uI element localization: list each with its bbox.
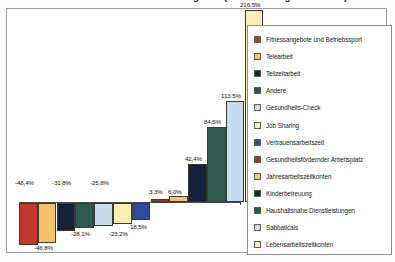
legend-swatch-icon: [254, 122, 261, 129]
bar: [75, 203, 94, 228]
legend-swatch-icon: [254, 241, 261, 248]
legend-item-label: Jahresarbeitszeitkonten: [266, 173, 331, 180]
bar-value-label: 216,5%: [240, 1, 260, 8]
legend-item-label: Teilzeitarbeit: [266, 70, 300, 77]
bar: [94, 203, 113, 226]
legend-item: Gesundheitsfördernder Arbeitsplatz: [254, 151, 387, 168]
legend-item: Fitnessangebote und Betriebssport: [254, 31, 387, 48]
legend-item-label: Haushaltsnahe Dienstleistungen: [266, 207, 355, 214]
legend-item-label: Kinderbetreuung: [266, 190, 312, 197]
bar-value-label: 42,4%: [185, 155, 202, 162]
chart-title-cropped: Anteil der Unternehmen mit Angebot (Verä…: [0, 0, 395, 7]
plot-area: -48,4%-46,8%-31,8%-28,1%-25,8%-23,2%-18,…: [13, 19, 241, 259]
legend-swatch-icon: [254, 190, 261, 197]
bar-value-label: -46,8%: [34, 244, 53, 251]
legend-swatch-icon: [254, 70, 261, 77]
legend-item: Lebensarbeitszeitkonten: [254, 236, 387, 253]
legend-item: Gesundheits-Check: [254, 99, 387, 116]
legend-swatch-icon: [254, 36, 261, 43]
bar: [226, 101, 245, 202]
bar-value-label: -28,1%: [71, 230, 90, 237]
legend-item: Haushaltsnahe Dienstleistungen: [254, 202, 387, 219]
legend-swatch-icon: [254, 224, 261, 231]
legend-item-label: Vertrauensarbeitszeit: [266, 139, 324, 146]
legend-item-label: Andere: [266, 87, 286, 94]
chart-legend: Fitnessangebote und BetriebssportTelearb…: [247, 25, 392, 255]
chart-title-text: Anteil der Unternehmen mit Angebot (Verä…: [40, 0, 348, 2]
bar: [132, 203, 151, 220]
bar-value-label: -48,4%: [15, 179, 34, 186]
legend-item-label: Gesundheits-Check: [266, 104, 320, 111]
legend-item-label: Gesundheitsfördernder Arbeitsplatz: [266, 156, 363, 163]
bar-value-label: -23,2%: [109, 230, 128, 237]
legend-item: Job Sharing: [254, 116, 387, 133]
bar-value-label: 3,3%: [149, 188, 163, 195]
bar: [207, 127, 226, 202]
bar: [151, 199, 170, 202]
legend-item: Teilzeitarbeit: [254, 65, 387, 82]
legend-item: Vertrauensarbeitszeit: [254, 134, 387, 151]
bar: [38, 203, 57, 243]
legend-item: Kinderbetreuung: [254, 185, 387, 202]
chart-frame: -48,4%-46,8%-31,8%-28,1%-25,8%-23,2%-18,…: [6, 8, 387, 253]
bar-value-label: 6,0%: [168, 188, 182, 195]
legend-item-label: Fitnessangebote und Betriebssport: [266, 36, 362, 43]
legend-item: Andere: [254, 82, 387, 99]
legend-item-label: Sabbaticals: [266, 224, 298, 231]
bar: [188, 164, 207, 202]
legend-swatch-icon: [254, 207, 261, 214]
bar-value-label: -18,5%: [128, 223, 147, 230]
bar: [113, 203, 132, 224]
bar-value-label: 84,5%: [204, 118, 221, 125]
legend-swatch-icon: [254, 53, 261, 60]
bar: [169, 196, 188, 202]
legend-swatch-icon: [254, 173, 261, 180]
legend-item-label: Job Sharing: [266, 122, 299, 129]
legend-swatch-icon: [254, 139, 261, 146]
bar-value-label: -25,8%: [90, 179, 109, 186]
legend-item: Jahresarbeitszeitkonten: [254, 168, 387, 185]
bar: [19, 203, 38, 245]
bar-value-label: -31,8%: [52, 179, 71, 186]
legend-swatch-icon: [254, 104, 261, 111]
legend-swatch-icon: [254, 156, 261, 163]
legend-item-label: Lebensarbeitszeitkonten: [266, 241, 333, 248]
bar: [57, 203, 76, 231]
bar-value-label: 113,5%: [221, 92, 241, 99]
legend-swatch-icon: [254, 87, 261, 94]
legend-item: Sabbaticals: [254, 219, 387, 236]
chart-screenshot: Anteil der Unternehmen mit Angebot (Verä…: [0, 0, 395, 262]
legend-item: Telearbeit: [254, 48, 387, 65]
legend-item-label: Telearbeit: [266, 53, 293, 60]
